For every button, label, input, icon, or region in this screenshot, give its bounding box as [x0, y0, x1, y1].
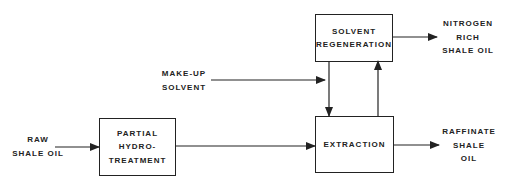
- box-label-line: TREATMENT: [109, 154, 167, 168]
- flow-arrows: [0, 0, 509, 186]
- nitrogen-rich-shale-oil-label: NITROGEN RICH SHALE OIL: [438, 17, 498, 58]
- label-line: SHALE OIL: [438, 44, 498, 58]
- make-up-solvent-label: MAKE-UP SOLVENT: [158, 67, 210, 94]
- label-line: OIL: [439, 152, 499, 166]
- label-line: RICH: [438, 31, 498, 45]
- extraction-box: EXTRACTION: [315, 116, 394, 173]
- label-line: SHALE: [439, 139, 499, 153]
- raffinate-shale-oil-label: RAFFINATE SHALE OIL: [439, 125, 499, 166]
- box-label-line: EXTRACTION: [324, 138, 386, 152]
- solvent-regeneration-box: SOLVENT REGENERATION: [315, 14, 393, 62]
- label-line: MAKE-UP: [158, 67, 210, 81]
- raw-shale-oil-label: RAW SHALE OIL: [8, 133, 68, 160]
- label-line: SOLVENT: [158, 81, 210, 95]
- box-label-line: PARTIAL: [117, 127, 158, 141]
- box-label-line: HYDRO-: [119, 140, 157, 154]
- label-line: NITROGEN: [438, 17, 498, 31]
- box-label-line: REGENERATION: [316, 38, 392, 52]
- label-line: RAFFINATE: [439, 125, 499, 139]
- label-line: SHALE OIL: [8, 147, 68, 161]
- label-line: RAW: [8, 133, 68, 147]
- box-label-line: SOLVENT: [332, 25, 376, 39]
- partial-hydrotreatment-box: PARTIAL HYDRO- TREATMENT: [99, 118, 176, 176]
